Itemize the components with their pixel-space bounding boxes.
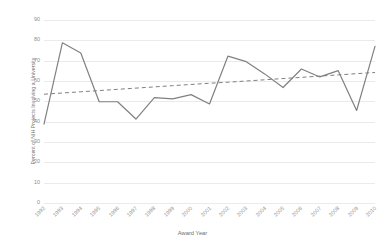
gridline-0	[44, 203, 375, 204]
trendline	[44, 72, 375, 94]
x-tick-label-1996: 1996	[107, 205, 120, 218]
x-tick-label-2007: 2007	[309, 205, 322, 218]
x-tick-label-2000: 2000	[181, 205, 194, 218]
x-tick-label-2008: 2008	[328, 205, 341, 218]
y-tick-label-20: 20	[26, 159, 40, 164]
x-tick-label-2003: 2003	[236, 205, 249, 218]
x-tick-label-1994: 1994	[70, 205, 83, 218]
x-tick-label-2001: 2001	[199, 205, 212, 218]
plot-area	[44, 20, 375, 203]
y-tick-label-90: 90	[26, 17, 40, 22]
x-axis-title: Award Year	[0, 230, 385, 236]
x-tick-label-2002: 2002	[217, 205, 230, 218]
y-tick-label-80: 80	[26, 37, 40, 42]
x-tick-label-2006: 2006	[291, 205, 304, 218]
x-tick-label-2010: 2010	[365, 205, 378, 218]
x-tick-label-1999: 1999	[162, 205, 175, 218]
y-tick-label-50: 50	[26, 98, 40, 103]
y-tick-label-40: 40	[26, 119, 40, 124]
plot-svg	[44, 20, 375, 203]
x-tick-label-2009: 2009	[346, 205, 359, 218]
y-tick-label-10: 10	[26, 180, 40, 185]
x-tick-label-1997: 1997	[125, 205, 138, 218]
x-tick-label-1998: 1998	[144, 205, 157, 218]
y-tick-label-60: 60	[26, 78, 40, 83]
x-tick-label-1995: 1995	[89, 205, 102, 218]
y-tick-label-30: 30	[26, 139, 40, 144]
x-tick-label-1993: 1993	[52, 205, 65, 218]
y-tick-label-0: 0	[26, 200, 40, 205]
chart-container: Percent of NIH Projects Involving a Univ…	[0, 0, 385, 251]
x-tick-label-2004: 2004	[254, 205, 267, 218]
data-series-line	[44, 43, 375, 124]
x-tick-label-2005: 2005	[273, 205, 286, 218]
y-tick-label-70: 70	[26, 58, 40, 63]
